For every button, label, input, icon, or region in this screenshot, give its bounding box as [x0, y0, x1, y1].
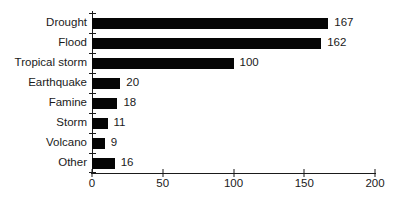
chart-row: Famine 18 — [92, 93, 375, 113]
x-axis-tick-label: 100 — [224, 178, 243, 190]
x-axis-tick — [375, 169, 376, 177]
chart-row: Drought 167 — [92, 13, 375, 33]
chart-row: Storm 11 — [92, 113, 375, 133]
value-label: 11 — [114, 117, 126, 129]
y-axis-tick — [89, 113, 96, 114]
bar — [92, 158, 115, 169]
y-axis-tick — [89, 133, 96, 134]
y-axis-tick — [89, 93, 96, 94]
y-axis-tick — [89, 13, 96, 14]
y-axis-tick — [89, 172, 96, 173]
bar — [92, 58, 234, 69]
x-axis-tick-label: 200 — [365, 178, 384, 190]
x-axis-tick-label: 150 — [295, 178, 314, 190]
plot-area: Drought 167 Flood 162 Tropical storm 100… — [92, 13, 375, 173]
value-label: 16 — [121, 157, 134, 169]
value-label: 100 — [240, 57, 259, 69]
category-label: Earthquake — [28, 77, 87, 89]
category-label: Tropical storm — [15, 57, 87, 69]
x-axis-tick — [92, 169, 93, 177]
bar — [92, 98, 117, 109]
bar — [92, 78, 120, 89]
x-axis-tick — [304, 169, 305, 177]
category-label: Other — [58, 157, 87, 169]
value-label: 162 — [327, 37, 346, 49]
y-axis-tick — [89, 73, 96, 74]
y-axis-tick — [89, 53, 96, 54]
x-axis-tick — [162, 169, 163, 177]
chart-row: Earthquake 20 — [92, 73, 375, 93]
bar — [92, 138, 105, 149]
x-axis-tick-label: 50 — [156, 178, 169, 190]
y-axis-tick — [89, 33, 96, 34]
value-label: 9 — [111, 137, 117, 149]
chart-row: Tropical storm 100 — [92, 53, 375, 73]
bar — [92, 38, 321, 49]
bar-rows: Drought 167 Flood 162 Tropical storm 100… — [92, 13, 375, 173]
category-label: Drought — [46, 17, 87, 29]
category-label: Flood — [58, 37, 87, 49]
x-axis-tick-label: 0 — [89, 178, 95, 190]
value-label: 20 — [126, 77, 139, 89]
category-label: Storm — [56, 117, 87, 129]
y-axis-tick — [89, 153, 96, 154]
chart-row: Flood 162 — [92, 33, 375, 53]
value-label: 167 — [334, 17, 353, 29]
bar-chart: Drought 167 Flood 162 Tropical storm 100… — [0, 0, 401, 204]
category-label: Famine — [49, 97, 87, 109]
bar — [92, 118, 108, 129]
bar — [92, 18, 328, 29]
x-axis-tick — [233, 169, 234, 177]
value-label: 18 — [123, 97, 136, 109]
category-label: Volcano — [46, 137, 87, 149]
chart-row: Volcano 9 — [92, 133, 375, 153]
